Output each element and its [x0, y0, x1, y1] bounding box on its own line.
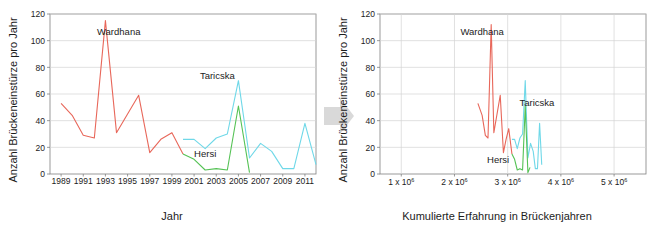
panel-left: Anzahl Brückeneinstürze pro Jahr 0204060… [0, 0, 322, 236]
panel-right: Anzahl Brückeneinstürze pro Jahr 0204060… [330, 0, 652, 236]
x-tick-label: 1989 [52, 176, 71, 186]
right-x-axis-label: Kumulierte Erfahrung in Brückenjahren [342, 210, 652, 222]
x-tick-exponent: 6 [518, 177, 521, 183]
x-tick-label: 2005 [229, 176, 248, 186]
x-tick-label: 1999 [162, 176, 181, 186]
x-tick-label: 2 x 106 [441, 177, 467, 187]
x-tick-label: 1991 [74, 176, 93, 186]
left-chart-svg: 0204060801001201989199119931995199719992… [22, 8, 322, 200]
y-tick-label: 60 [366, 89, 376, 99]
x-tick-exponent: 6 [624, 177, 627, 183]
series-annotation-wardhana: Wardhana [460, 26, 504, 37]
series-annotation-taricska: Taricska [200, 70, 236, 81]
y-tick-label: 120 [361, 9, 375, 19]
left-x-axis-label: Jahr [22, 210, 322, 222]
x-tick-exponent: 6 [465, 177, 468, 183]
x-tick-mantissa: 2 x 10 [441, 177, 464, 187]
series-annotation-taricska: Taricska [520, 97, 556, 108]
right-y-axis-label: Anzahl Brückeneinstürze pro Jahr [334, 0, 352, 200]
x-tick-label: 2009 [273, 176, 292, 186]
x-tick-label: 2007 [251, 176, 270, 186]
x-tick-label: 5 x 106 [601, 177, 627, 187]
series-annotation-wardhana: Wardhana [97, 26, 141, 37]
x-tick-mantissa: 5 x 10 [601, 177, 624, 187]
x-tick-label: 2001 [185, 176, 204, 186]
y-tick-label: 120 [31, 9, 45, 19]
series-annotation-hersi: Hersi [194, 148, 216, 159]
x-tick-label: 2003 [207, 176, 226, 186]
right-plot-area: 0204060801001201 x 1062 x 1063 x 1064 x … [352, 8, 652, 200]
x-tick-exponent: 6 [571, 177, 574, 183]
x-tick-label: 3 x 106 [495, 177, 521, 187]
y-tick-label: 60 [36, 89, 46, 99]
x-tick-exponent: 6 [411, 177, 414, 183]
left-y-axis-label: Anzahl Brückeneinstürze pro Jahr [4, 0, 22, 200]
x-tick-mantissa: 3 x 10 [495, 177, 518, 187]
series-annotation-hersi: Hersi [487, 154, 509, 165]
x-tick-label: 4 x 106 [548, 177, 574, 187]
y-tick-label: 20 [36, 143, 46, 153]
x-tick-label: 1997 [140, 176, 159, 186]
x-tick-label: 1993 [96, 176, 115, 186]
x-tick-label: 2011 [296, 176, 315, 186]
y-tick-label: 100 [31, 36, 45, 46]
x-tick-mantissa: 1 x 10 [388, 177, 411, 187]
y-tick-label: 100 [361, 36, 375, 46]
x-tick-mantissa: 4 x 10 [548, 177, 571, 187]
y-tick-label: 80 [366, 63, 376, 73]
y-tick-label: 0 [40, 169, 45, 179]
y-tick-label: 20 [366, 143, 376, 153]
figure-two-panel-line-charts: Anzahl Brückeneinstürze pro Jahr 0204060… [0, 0, 652, 236]
right-chart-svg: 0204060801001201 x 1062 x 1063 x 1064 x … [352, 8, 652, 200]
left-plot-area: 0204060801001201989199119931995199719992… [22, 8, 322, 200]
y-tick-label: 80 [36, 63, 46, 73]
y-tick-label: 40 [36, 116, 46, 126]
y-tick-label: 0 [370, 169, 375, 179]
x-tick-label: 1 x 106 [388, 177, 414, 187]
x-tick-label: 1995 [118, 176, 137, 186]
y-tick-label: 40 [366, 116, 376, 126]
